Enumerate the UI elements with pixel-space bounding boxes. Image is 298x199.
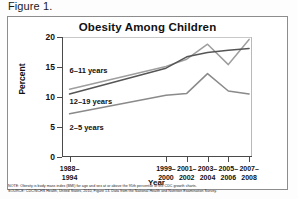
series-label: 2–5 years — [70, 123, 104, 132]
x-tick — [70, 157, 71, 162]
x-tick-label: 2003–2004 — [198, 164, 217, 182]
plot-area: 05101520 1988–19941999–20002001–20022003… — [62, 37, 251, 157]
x-tick — [228, 157, 229, 162]
x-tick-label: 2007–2008 — [239, 164, 258, 182]
x-tick — [249, 157, 250, 162]
plot-right-border — [251, 37, 252, 157]
figure-container: Figure 1. Obesity Among Children Percent… — [0, 0, 298, 199]
y-tick-label: 15 — [46, 62, 55, 72]
footnote-block: NOTE: Obesity is body mass index (BMI) f… — [8, 184, 292, 194]
x-tick — [187, 157, 188, 162]
chart-frame: Obesity Among Children Percent Year 0510… — [7, 16, 288, 190]
x-tick — [166, 157, 167, 162]
y-tick-label: 10 — [46, 92, 55, 102]
y-tick-label: 20 — [46, 32, 55, 42]
y-tick-label: 0 — [50, 152, 55, 162]
x-tick-label: 1999–2000 — [156, 164, 175, 182]
series-line — [70, 39, 250, 89]
series-line — [70, 74, 250, 114]
x-tick-label: 2001–2002 — [177, 164, 196, 182]
y-axis-label: Percent — [17, 63, 27, 94]
x-tick — [208, 157, 209, 162]
y-tick — [57, 157, 62, 158]
x-tick-label: 2005–2006 — [219, 164, 238, 182]
y-tick-label: 5 — [50, 122, 55, 132]
series-label: 12–19 years — [70, 97, 113, 106]
x-tick-label: 1988–1994 — [60, 164, 79, 182]
figure-label: Figure 1. — [8, 0, 52, 12]
series-label: 6–11 years — [70, 66, 108, 75]
footnote-source: SOURCE: CDC/NCHS Health, United States, … — [8, 189, 292, 194]
